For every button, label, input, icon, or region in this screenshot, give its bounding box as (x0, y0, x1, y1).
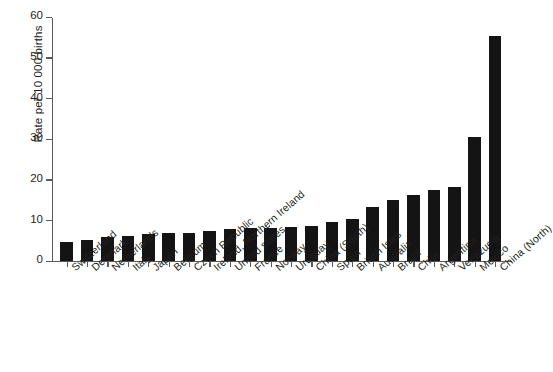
y-axis-tick: 60 (46, 17, 52, 18)
y-axis-tick-label: 50 (30, 50, 43, 62)
y-axis-tick: 40 (46, 98, 52, 99)
y-axis-tick: 50 (46, 57, 52, 58)
y-axis-tick: 10 (46, 220, 52, 221)
y-axis-tick: 0 (46, 261, 52, 262)
y-axis-tick-label: 0 (37, 253, 43, 265)
x-axis-category-labels: SwitzerlandDenmarkNetherlandsItalyJapanB… (52, 264, 522, 372)
y-axis-tick-label: 10 (30, 213, 43, 225)
y-axis-tick: 30 (46, 139, 52, 140)
y-axis-line (52, 18, 53, 262)
y-axis-tick-label: 20 (30, 172, 43, 184)
y-axis-tick-label: 60 (30, 9, 43, 21)
y-axis-tick-label: 40 (30, 91, 43, 103)
y-axis-tick-label: 30 (30, 131, 43, 143)
bar (489, 36, 502, 261)
y-axis-tick: 20 (46, 179, 52, 180)
bar (60, 242, 73, 261)
y-axis-title: Rate per 10 000 births (32, 0, 44, 169)
